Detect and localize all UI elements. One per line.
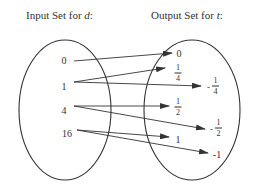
output-set-ellipse xyxy=(144,40,240,180)
input-value: 0 xyxy=(62,55,67,66)
denominator: 2 xyxy=(217,130,221,138)
output-value: 0 xyxy=(177,48,182,59)
output-value-fraction: -12 xyxy=(210,119,222,138)
output-value-fraction: -14 xyxy=(207,77,219,96)
arrow-1-to-neg-quarter xyxy=(74,82,201,86)
output-value-fraction: 12 xyxy=(175,98,182,117)
mapping-diagram-canvas xyxy=(0,0,253,192)
arrow-16-to-neg-1 xyxy=(77,130,208,153)
input-value: 4 xyxy=(62,105,67,116)
output-value: 1 xyxy=(176,134,181,145)
arrow-1-to-quarter xyxy=(74,68,165,82)
numerator: 1 xyxy=(214,77,218,85)
numerator: 1 xyxy=(217,119,221,127)
output-value-fraction: 14 xyxy=(175,64,182,83)
minus-sign: - xyxy=(207,81,210,91)
input-value: 1 xyxy=(62,81,67,92)
numerator: 1 xyxy=(176,64,180,72)
numerator: 1 xyxy=(176,98,180,106)
arrow-0-to-0 xyxy=(74,53,172,61)
denominator: 4 xyxy=(176,75,180,83)
denominator: 4 xyxy=(214,88,218,96)
denominator: 2 xyxy=(176,109,180,117)
arrow-4-to-neg-half xyxy=(74,106,205,129)
output-value: -1 xyxy=(213,149,221,160)
input-value: 16 xyxy=(62,128,72,139)
minus-sign: - xyxy=(210,123,213,133)
arrow-16-to-1 xyxy=(77,130,169,137)
